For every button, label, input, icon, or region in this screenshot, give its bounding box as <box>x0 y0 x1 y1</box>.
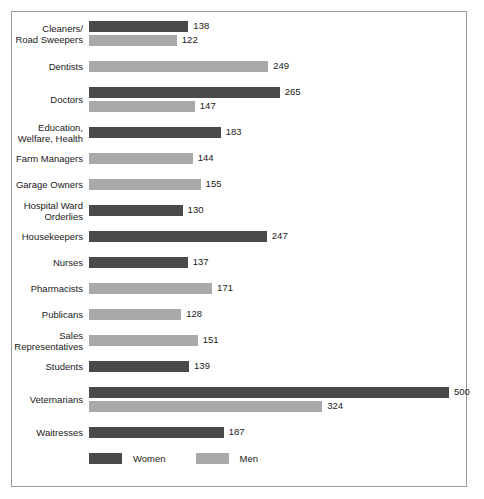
legend-item-men[interactable]: Men <box>196 453 288 464</box>
category-label: Pharmacists <box>12 283 83 294</box>
bar-women[interactable] <box>89 361 189 372</box>
bar-line: 265 <box>89 87 466 98</box>
bar-line: 249 <box>89 61 466 72</box>
bar-value-label: 130 <box>188 204 204 216</box>
bar-line: 144 <box>89 153 466 164</box>
bar-women[interactable] <box>89 257 188 268</box>
legend-swatch-women-icon <box>89 453 122 464</box>
chart-category-row: Garage Owners155 <box>12 179 466 190</box>
category-label: Waitresses <box>12 427 83 438</box>
bar-value-label: 138 <box>193 20 209 32</box>
chart-category-row: Education, Welfare, Health183 <box>12 127 466 138</box>
chart-category-row: Farm Managers144 <box>12 153 466 164</box>
bar-line: 324 <box>89 401 466 412</box>
chart-category-row: Hospital Ward Orderlies130 <box>12 205 466 216</box>
category-bars: 137 <box>89 257 466 271</box>
bar-men[interactable] <box>89 61 268 72</box>
bar-line: 187 <box>89 427 466 438</box>
category-label: Education, Welfare, Health <box>12 122 83 144</box>
bar-value-label: 187 <box>229 426 245 438</box>
bar-value-label: 500 <box>454 386 470 398</box>
category-label: Hospital Ward Orderlies <box>12 200 83 222</box>
bar-value-label: 249 <box>273 60 289 72</box>
category-bars: 265147 <box>89 87 466 115</box>
bar-line: 122 <box>89 35 466 46</box>
bar-line: 137 <box>89 257 466 268</box>
bar-women[interactable] <box>89 387 449 398</box>
bar-men[interactable] <box>89 101 195 112</box>
category-bars: 183 <box>89 127 466 141</box>
category-bars: 500324 <box>89 387 466 415</box>
category-label: Garage Owners <box>12 179 83 190</box>
chart-plot-area: Cleaners/ Road Sweepers138122Dentists249… <box>12 12 466 486</box>
bar-men[interactable] <box>89 283 212 294</box>
bar-women[interactable] <box>89 127 221 138</box>
category-bars: 249 <box>89 61 466 75</box>
category-bars: 128 <box>89 309 466 323</box>
bar-value-label: 247 <box>272 230 288 242</box>
category-bars: 187 <box>89 427 466 441</box>
bar-value-label: 128 <box>186 308 202 320</box>
category-label: Sales Representatives <box>12 330 83 352</box>
chart-category-row: Waitresses187 <box>12 427 466 438</box>
chart-frame: Cleaners/ Road Sweepers138122Dentists249… <box>11 11 467 487</box>
bar-men[interactable] <box>89 35 177 46</box>
legend-label: Men <box>240 453 258 464</box>
category-label: Nurses <box>12 257 83 268</box>
chart-category-row: Pharmacists171 <box>12 283 466 294</box>
category-bars: 139 <box>89 361 466 375</box>
bar-value-label: 147 <box>200 100 216 112</box>
chart-category-row: Sales Representatives151 <box>12 335 466 346</box>
bar-line: 138 <box>89 21 466 32</box>
bar-value-label: 183 <box>226 126 242 138</box>
bar-value-label: 122 <box>182 34 198 46</box>
category-label: Doctors <box>12 94 83 105</box>
category-bars: 144 <box>89 153 466 167</box>
bar-line: 171 <box>89 283 466 294</box>
bar-women[interactable] <box>89 87 280 98</box>
bar-value-label: 151 <box>203 334 219 346</box>
bar-men[interactable] <box>89 309 181 320</box>
category-bars: 130 <box>89 205 466 219</box>
chart-category-row: Dentists249 <box>12 61 466 72</box>
bar-women[interactable] <box>89 427 224 438</box>
bar-line: 500 <box>89 387 466 398</box>
category-bars: 138122 <box>89 21 466 49</box>
chart-category-row: Students139 <box>12 361 466 372</box>
chart-category-row: Cleaners/ Road Sweepers138122 <box>12 21 466 46</box>
bar-men[interactable] <box>89 401 322 412</box>
category-bars: 155 <box>89 179 466 193</box>
category-label: Dentists <box>12 61 83 72</box>
bar-line: 247 <box>89 231 466 242</box>
bar-value-label: 324 <box>327 400 343 412</box>
chart-category-row: Housekeepers247 <box>12 231 466 242</box>
category-label: Students <box>12 361 83 372</box>
bar-line: 147 <box>89 101 466 112</box>
chart-category-row: Publicans128 <box>12 309 466 320</box>
bar-value-label: 139 <box>194 360 210 372</box>
category-label: Housekeepers <box>12 231 83 242</box>
legend-swatch-men-icon <box>196 453 229 464</box>
category-label: Farm Managers <box>12 153 83 164</box>
bar-men[interactable] <box>89 335 198 346</box>
bar-men[interactable] <box>89 179 201 190</box>
bar-line: 155 <box>89 179 466 190</box>
bar-women[interactable] <box>89 205 183 216</box>
bar-line: 139 <box>89 361 466 372</box>
bar-women[interactable] <box>89 21 188 32</box>
bar-line: 183 <box>89 127 466 138</box>
category-label: Cleaners/ Road Sweepers <box>12 23 83 45</box>
chart-legend: WomenMen <box>89 453 288 464</box>
bar-women[interactable] <box>89 231 267 242</box>
chart-category-row: Nurses137 <box>12 257 466 268</box>
category-bars: 171 <box>89 283 466 297</box>
bar-line: 130 <box>89 205 466 216</box>
category-label: Publicans <box>12 309 83 320</box>
chart-category-row: Veternarians500324 <box>12 387 466 412</box>
legend-label: Women <box>133 453 166 464</box>
bar-men[interactable] <box>89 153 193 164</box>
legend-item-women[interactable]: Women <box>89 453 196 464</box>
bar-value-label: 137 <box>193 256 209 268</box>
category-bars: 247 <box>89 231 466 245</box>
bar-value-label: 144 <box>198 152 214 164</box>
